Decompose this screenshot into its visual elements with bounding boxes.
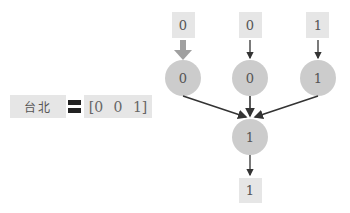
input-value-3: 1 (314, 18, 322, 33)
hidden-value-2: 0 (246, 71, 254, 86)
arrow (183, 96, 246, 117)
network-diagram: 0 0 1 0 0 1 1 1 (0, 0, 350, 213)
input-value-1: 0 (179, 18, 187, 33)
hidden-value-3: 1 (314, 71, 322, 86)
sum-value: 1 (246, 130, 254, 145)
hidden-value-1: 0 (179, 71, 187, 86)
input-value-2: 0 (246, 18, 254, 33)
output-value: 1 (246, 183, 254, 198)
arrow (255, 96, 318, 117)
highlight-arrow-icon (174, 40, 192, 60)
